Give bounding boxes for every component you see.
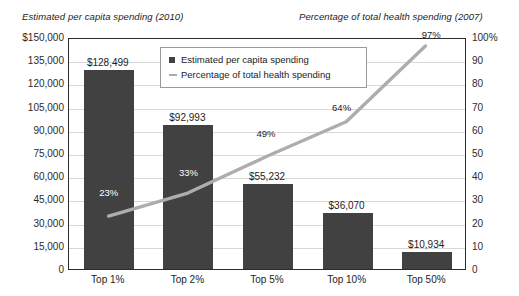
right-axis-tick: 70 xyxy=(472,103,483,113)
left-axis-tick: 60,000 xyxy=(33,172,64,182)
bar-value-label: $128,499 xyxy=(63,57,153,68)
line-point-label: 23% xyxy=(84,188,134,198)
left-axis-tick: 30,000 xyxy=(33,219,64,229)
right-axis-tick: 90 xyxy=(472,56,483,66)
left-axis-tick: 120,000 xyxy=(28,79,64,89)
right-axis-tick: 40 xyxy=(472,172,483,182)
left-axis-tick: 90,000 xyxy=(33,126,64,136)
right-axis-title: Percentage of total health spending (200… xyxy=(299,11,483,22)
x-axis-tick: Top 10% xyxy=(302,274,392,285)
bar-value-label: $10,934 xyxy=(381,239,471,250)
right-axis-tick: 20 xyxy=(472,219,483,229)
x-axis-tick: Top 5% xyxy=(222,274,312,285)
x-axis-tick: Top 1% xyxy=(63,274,153,285)
bar-value-label: $92,993 xyxy=(142,112,232,123)
bar xyxy=(402,252,452,269)
right-axis-tick: 30 xyxy=(472,195,483,205)
right-axis-tick: 0 xyxy=(472,265,478,275)
left-axis-tick: 135,000 xyxy=(28,56,64,66)
chart-legend: Estimated per capita spendingPercentage … xyxy=(160,47,367,88)
legend-item-label: Percentage of total health spending xyxy=(181,69,330,80)
right-axis-tick: 80 xyxy=(472,79,483,89)
left-axis-tick: 15,000 xyxy=(33,242,64,252)
legend-item: Percentage of total health spending xyxy=(169,68,358,81)
left-axis-tick: $150,000 xyxy=(22,33,64,43)
bar xyxy=(323,213,373,269)
x-axis-tick: Top 2% xyxy=(142,274,232,285)
right-axis-tick: 10 xyxy=(472,242,483,252)
right-axis-tick: 50 xyxy=(472,149,483,159)
bar xyxy=(84,70,134,269)
bar xyxy=(243,184,293,269)
square-marker-icon xyxy=(169,57,175,63)
x-axis-tick: Top 50% xyxy=(381,274,471,285)
legend-item: Estimated per capita spending xyxy=(169,53,358,66)
legend-item-label: Estimated per capita spending xyxy=(181,54,309,65)
bar xyxy=(163,125,213,269)
left-axis-tick: 45,000 xyxy=(33,195,64,205)
line-point-label: 33% xyxy=(163,168,213,178)
bar-value-label: $55,232 xyxy=(222,171,312,182)
right-axis-tick: 100% xyxy=(472,33,498,43)
line-marker-icon xyxy=(169,74,177,76)
chart-figure: Estimated per capita spending (2010) Per… xyxy=(0,0,519,296)
left-axis-tick: 75,000 xyxy=(33,149,64,159)
bar-value-label: $36,070 xyxy=(302,200,392,211)
left-axis-title: Estimated per capita spending (2010) xyxy=(22,11,184,22)
line-point-label: 64% xyxy=(317,103,367,113)
right-axis-tick: 60 xyxy=(472,126,483,136)
line-point-label: 97% xyxy=(406,30,456,40)
left-axis-tick: 105,000 xyxy=(28,103,64,113)
line-point-label: 49% xyxy=(241,129,291,139)
